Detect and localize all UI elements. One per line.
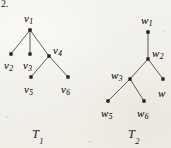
tree-node-w1 (146, 30, 150, 34)
vertex-label-v6: v6 (61, 84, 70, 95)
tree-node-w6 (142, 99, 145, 102)
vertex-label-v2: v2 (4, 60, 13, 71)
tree-caption-subscript: 1 (39, 136, 43, 146)
tree-node-w4 (161, 77, 164, 80)
tree-node-v2 (9, 52, 12, 55)
vertex-label-v5: v5 (24, 84, 33, 95)
tree-caption-subscript: 2 (135, 136, 139, 146)
vertex-label-base: w (141, 14, 148, 26)
vertex-label-v3: v3 (23, 60, 32, 71)
tree-edge-v4-v6 (49, 56, 68, 77)
vertex-label-subscript: 2 (9, 64, 13, 73)
vertex-label-v1: v1 (24, 13, 33, 24)
vertex-label-base: w (137, 107, 144, 119)
tree-node-v4 (47, 54, 50, 57)
vertex-label-w3: w3 (111, 70, 122, 81)
vertex-label-subscript: 2 (160, 52, 164, 61)
vertex-label-subscript: 4 (58, 49, 62, 58)
tree-caption-base: T (32, 127, 39, 141)
tree-caption-base: T (128, 127, 135, 141)
tree-edge-v1-v2 (11, 30, 30, 54)
vertex-label-subscript: 1 (29, 17, 33, 26)
tree-edge-v4-v5 (31, 56, 49, 77)
vertex-label-subscript: 6 (66, 88, 70, 97)
tree-caption-T2: T2 (128, 128, 139, 143)
figure-canvas: 2. v1v2v3v4v5v6T1w1w2w3ww5w6T2 (0, 0, 171, 148)
tree-edge-v1-v4 (30, 30, 49, 56)
tree-node-w2 (146, 57, 149, 60)
vertex-label-w6: w6 (137, 108, 148, 119)
vertex-label-base: w (158, 87, 165, 99)
tree-node-w3 (128, 77, 131, 80)
vertex-label-w5: w5 (101, 108, 112, 119)
tree-node-v3 (28, 52, 31, 55)
vertex-label-base: w (101, 107, 108, 119)
vertex-label-base: w (111, 69, 118, 81)
vertex-label-v4: v4 (53, 45, 62, 56)
tree-edge-w3-w6 (130, 79, 144, 101)
vertex-label-subscript: 5 (29, 88, 33, 97)
tree-node-v1 (28, 28, 32, 32)
vertex-label-w1: w1 (141, 15, 152, 26)
tree-edge-w2-w3 (130, 59, 148, 79)
vertex-label-w2: w2 (152, 48, 163, 59)
vertex-label-w4: w (158, 88, 165, 99)
tree-node-w5 (106, 99, 109, 102)
vertex-label-subscript: 3 (28, 64, 32, 73)
tree-node-v6 (66, 75, 69, 78)
vertex-label-base: w (152, 47, 159, 59)
vertex-label-subscript: 5 (109, 112, 113, 121)
vertex-label-subscript: 1 (149, 19, 153, 28)
tree-node-v5 (29, 75, 32, 78)
tree-caption-T1: T1 (32, 128, 43, 143)
tree-edge-w2-w4 (148, 59, 163, 79)
vertex-label-subscript: 6 (145, 112, 149, 121)
vertex-label-subscript: 3 (119, 74, 123, 83)
